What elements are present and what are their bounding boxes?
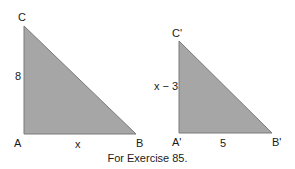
vertex-label-b-prime: B'	[272, 137, 281, 148]
side-label-ac: 8	[15, 71, 21, 82]
vertex-label-a-prime: A'	[172, 137, 181, 148]
side-label-a-prime-c-prime: x − 3	[154, 81, 178, 92]
vertex-label-b: B	[136, 138, 143, 149]
vertex-label-c-prime: C'	[172, 28, 182, 39]
figure-canvas	[0, 0, 295, 169]
figure-caption: For Exercise 85.	[0, 152, 295, 164]
vertex-label-c: C	[18, 12, 26, 23]
side-label-a-prime-b-prime: 5	[220, 138, 226, 149]
vertex-label-a: A	[14, 138, 21, 149]
side-label-ab: x	[75, 139, 81, 150]
triangle-abc	[24, 26, 136, 134]
triangle-a-prime-b-prime-c-prime	[179, 41, 272, 133]
